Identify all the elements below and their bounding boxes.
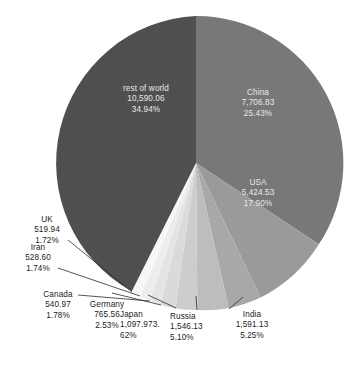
slice-label-russia-value: 1,546.13 xyxy=(170,322,222,332)
slice-label-uk: UK 519.94 1.72% xyxy=(23,215,71,246)
slice-label-russia-name: Russia xyxy=(170,312,222,322)
slice-label-canada-name: Canada xyxy=(35,290,81,300)
slice-label-india-value: 1,591.13 xyxy=(226,320,278,330)
slice-label-russia: Russia 1,546.13 5.10% xyxy=(170,312,222,343)
slice-label-china-value: 7,706.83 xyxy=(216,98,300,108)
pie-slices xyxy=(56,16,343,310)
slice-label-india: India 1,591.13 5.25% xyxy=(226,310,278,341)
slice-label-japan-percent: 62% xyxy=(120,331,170,341)
slice-label-iran-value: 528.60 xyxy=(14,253,62,263)
slice-label-rest-of-world: rest of world 10,590.06 34.94% xyxy=(100,84,192,115)
slice-label-iran: Iran 528.60 1.74% xyxy=(14,243,62,274)
slice-label-rest-of-world-value: 10,590.06 xyxy=(100,94,192,104)
slice-label-germany-name: Germany xyxy=(82,300,132,310)
slice-label-usa-name: USA xyxy=(216,178,300,188)
slice-label-rest-of-world-percent: 34.94% xyxy=(100,105,192,115)
slice-label-usa-value: 5,424.53 xyxy=(216,188,300,198)
slice-label-china-percent: 25.43% xyxy=(216,109,300,119)
slice-label-russia-percent: 5.10% xyxy=(170,333,222,343)
slice-label-india-name: India xyxy=(226,310,278,320)
slice-label-uk-name: UK xyxy=(23,215,71,225)
slice-label-canada: Canada 540.97 1.78% xyxy=(35,290,81,321)
slice-label-india-percent: 5.25% xyxy=(226,331,278,341)
slice-label-uk-value: 519.94 xyxy=(23,225,71,235)
pie-chart: rest of world 10,590.06 34.94% China 7,7… xyxy=(0,0,362,368)
slice-label-iran-name: Iran xyxy=(14,243,62,253)
slice-label-canada-percent: 1.78% xyxy=(35,311,81,321)
slice-label-japan: Japan 1,097.973. 62% xyxy=(120,310,170,341)
slice-label-canada-value: 540.97 xyxy=(35,300,81,310)
slice-label-china-name: China xyxy=(216,88,300,98)
slice-label-usa-percent: 17.90% xyxy=(216,199,300,209)
slice-label-japan-name: Japan xyxy=(120,310,170,320)
slice-label-rest-of-world-name: rest of world xyxy=(100,84,192,94)
slice-label-iran-percent: 1.74% xyxy=(14,264,62,274)
slice-label-japan-value: 1,097.973. xyxy=(120,320,170,330)
slice-label-usa: USA 5,424.53 17.90% xyxy=(216,178,300,209)
slice-label-china: China 7,706.83 25.43% xyxy=(216,88,300,119)
